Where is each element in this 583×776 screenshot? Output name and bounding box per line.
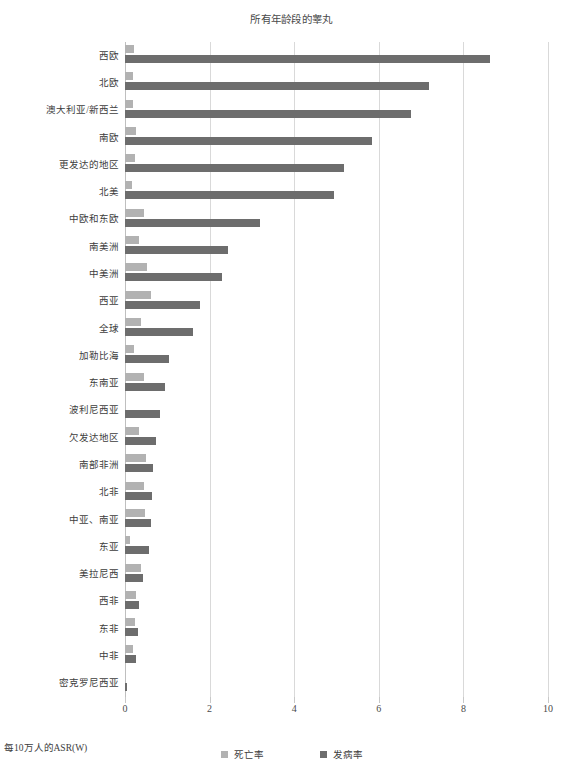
bar-row: [125, 642, 548, 669]
bar-mortality: [125, 645, 133, 653]
bar-incidence: [125, 191, 334, 199]
bar-row: [125, 233, 548, 260]
bar-row: [125, 69, 548, 96]
y-axis-category-label: 中欧和东欧: [0, 213, 119, 225]
x-axis-tick-label: 4: [292, 703, 297, 714]
bar-mortality: [125, 427, 139, 435]
bar-incidence: [125, 137, 372, 145]
bar-incidence: [125, 464, 153, 472]
bar-row: [125, 124, 548, 151]
bar-incidence: [125, 683, 127, 691]
y-axis-category-label: 南欧: [0, 132, 119, 144]
y-axis-category-label: 更发达的地区: [0, 159, 119, 171]
bar-row: [125, 670, 548, 697]
bar-row: [125, 42, 548, 69]
bar-row: [125, 615, 548, 642]
plot-area: [125, 42, 548, 697]
bar-mortality: [125, 291, 151, 299]
x-axis-tick-label: 8: [461, 703, 466, 714]
bar-row: [125, 97, 548, 124]
bar-mortality: [125, 345, 134, 353]
bar-mortality: [125, 263, 147, 271]
bar-row: [125, 506, 548, 533]
bar-row: [125, 397, 548, 424]
bar-mortality: [125, 318, 141, 326]
bar-incidence: [125, 546, 149, 554]
bar-mortality: [125, 482, 144, 490]
bar-incidence: [125, 246, 228, 254]
y-axis-category-label: 西非: [0, 595, 119, 607]
x-axis-labels: 0246810: [0, 703, 583, 721]
bar-row: [125, 260, 548, 287]
bar-mortality: [125, 454, 146, 462]
legend-item[interactable]: 发病率: [320, 747, 363, 761]
bar-row: [125, 424, 548, 451]
bar-mortality: [125, 209, 144, 217]
bar-mortality: [125, 127, 136, 135]
bar-incidence: [125, 301, 200, 309]
bar-incidence: [125, 273, 222, 281]
legend-swatch-icon: [221, 751, 228, 758]
bar-row: [125, 342, 548, 369]
y-axis-category-label: 美拉尼西: [0, 568, 119, 580]
bar-incidence: [125, 628, 138, 636]
bar-incidence: [125, 437, 156, 445]
gridline-10: [548, 42, 549, 697]
y-axis-category-label: 欠发达地区: [0, 432, 119, 444]
bar-row: [125, 479, 548, 506]
bar-incidence: [125, 55, 490, 63]
bar-row: [125, 533, 548, 560]
bar-row: [125, 151, 548, 178]
legend-swatch-icon: [320, 751, 327, 758]
y-axis-category-label: 西欧: [0, 50, 119, 62]
y-axis-category-label: 南美洲: [0, 241, 119, 253]
bar-mortality: [125, 100, 133, 108]
chart-legend: 死亡率发病率: [0, 747, 583, 761]
y-axis-category-label: 南部非洲: [0, 459, 119, 471]
bar-mortality: [125, 536, 130, 544]
y-axis-category-label: 中美洲: [0, 268, 119, 280]
bar-incidence: [125, 655, 136, 663]
y-axis-category-label: 东亚: [0, 541, 119, 553]
y-axis-category-label: 中非: [0, 650, 119, 662]
bar-row: [125, 178, 548, 205]
x-axis-tick-label: 6: [376, 703, 381, 714]
bar-row: [125, 288, 548, 315]
bar-mortality: [125, 181, 132, 189]
y-axis-labels: 西欧北欧澳大利亚/新西兰南欧更发达的地区北美中欧和东欧南美洲中美洲西亚全球加勒比…: [0, 42, 119, 697]
bar-incidence: [125, 410, 160, 418]
y-axis-category-label: 中亚、南亚: [0, 514, 119, 526]
bar-row: [125, 561, 548, 588]
y-axis-category-label: 全球: [0, 323, 119, 335]
legend-label: 发病率: [333, 747, 363, 761]
y-axis-category-label: 北美: [0, 186, 119, 198]
bar-mortality: [125, 45, 134, 53]
y-axis-category-label: 波利尼西亚: [0, 404, 119, 416]
y-axis-category-label: 东南亚: [0, 377, 119, 389]
bar-incidence: [125, 164, 344, 172]
legend-item[interactable]: 死亡率: [221, 747, 264, 761]
y-axis-category-label: 北欧: [0, 77, 119, 89]
bar-row: [125, 588, 548, 615]
bar-mortality: [125, 154, 135, 162]
bar-mortality: [125, 72, 133, 80]
y-axis-category-label: 东非: [0, 623, 119, 635]
chart-root: 所有年龄段的睾丸 西欧北欧澳大利亚/新西兰南欧更发达的地区北美中欧和东欧南美洲中…: [0, 0, 583, 776]
bar-row: [125, 206, 548, 233]
bar-mortality: [125, 373, 144, 381]
y-axis-category-label: 澳大利亚/新西兰: [0, 104, 119, 116]
bar-row: [125, 451, 548, 478]
bar-mortality: [125, 236, 139, 244]
x-axis-tick-label: 2: [207, 703, 212, 714]
bar-mortality: [125, 509, 145, 517]
bar-incidence: [125, 383, 165, 391]
bar-incidence: [125, 110, 411, 118]
bar-row: [125, 315, 548, 342]
bar-mortality: [125, 564, 141, 572]
x-axis-tick-label: 0: [123, 703, 128, 714]
y-axis-category-label: 西亚: [0, 295, 119, 307]
bar-incidence: [125, 519, 151, 527]
y-axis-category-label: 加勒比海: [0, 350, 119, 362]
x-axis-tick-label: 10: [543, 703, 553, 714]
bar-row: [125, 370, 548, 397]
